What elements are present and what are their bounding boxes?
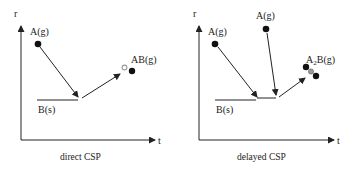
desorption-arrow <box>82 74 120 98</box>
y-axis-label: r <box>14 8 18 19</box>
gas-a-first-dot <box>212 41 219 48</box>
desorption-arrow <box>279 78 305 97</box>
gas-a-dot <box>35 41 42 48</box>
product-hollow-dot <box>122 65 127 70</box>
product-dot-2 <box>308 69 313 74</box>
gas-a-label: A(g) <box>30 26 49 38</box>
x-axis-label: t <box>158 135 161 146</box>
gas-a-first-label: A(g) <box>208 26 227 38</box>
x-axis-label: t <box>337 135 340 146</box>
product-dot-3 <box>313 73 319 79</box>
csp-diagram: r t A(g) B(s) AB(g) direct CSP r t A(g) … <box>0 0 358 170</box>
product-solid-dot <box>129 68 135 74</box>
gas-a-second-dot <box>263 26 270 33</box>
panel-delayed-csp: r t A(g) A(g) B(s) A2B(g) delayed CSP <box>193 8 340 162</box>
caption-direct-csp: direct CSP <box>60 152 101 162</box>
product-label: A2B(g) <box>306 54 335 67</box>
solid-b-label: B(s) <box>216 104 233 116</box>
second-adsorption-arrow <box>267 33 276 95</box>
adsorption-arrow <box>40 47 78 97</box>
first-adsorption-arrow <box>218 47 257 97</box>
panel-direct-csp: r t A(g) B(s) AB(g) direct CSP <box>14 8 161 162</box>
product-label: AB(g) <box>131 54 157 66</box>
caption-delayed-csp: delayed CSP <box>237 152 286 162</box>
y-axis-label: r <box>193 8 197 19</box>
gas-a-second-label: A(g) <box>256 10 275 22</box>
solid-b-label: B(s) <box>38 104 55 116</box>
